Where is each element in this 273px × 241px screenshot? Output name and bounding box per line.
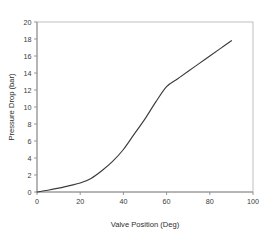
y-tick-label: 6	[28, 137, 32, 146]
y-axis-title: Pressure Drop (bar)	[7, 73, 16, 141]
pressure-drop-line-chart: 02468101214161820 020406080100 Valve Pos…	[0, 0, 273, 241]
y-tick-label: 16	[24, 52, 32, 61]
y-tick-label: 20	[24, 18, 32, 27]
y-tick-label: 4	[28, 154, 32, 163]
y-tick-label: 2	[28, 171, 32, 180]
y-tick-label: 14	[24, 69, 32, 78]
x-tick-label: 20	[76, 197, 84, 206]
y-tick-label: 10	[24, 103, 32, 112]
figure-background	[0, 0, 273, 241]
x-axis-title: Valve Position (Deg)	[111, 220, 180, 229]
y-tick-label: 18	[24, 35, 32, 44]
y-tick-label: 8	[28, 120, 32, 129]
x-tick-label: 0	[35, 197, 39, 206]
x-tick-label: 60	[163, 197, 171, 206]
y-tick-label: 0	[28, 188, 32, 197]
y-tick-label: 12	[24, 86, 32, 95]
chart-figure: 02468101214161820 020406080100 Valve Pos…	[0, 0, 273, 241]
x-tick-label: 40	[119, 197, 127, 206]
x-tick-label: 100	[247, 197, 259, 206]
x-tick-label: 80	[206, 197, 214, 206]
